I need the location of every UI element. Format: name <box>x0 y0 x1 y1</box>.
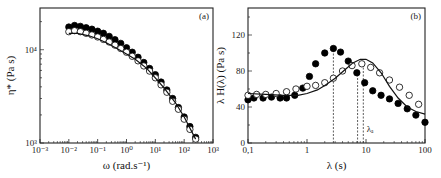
open-data-point <box>312 82 318 88</box>
lambda-a-annotation: λₐ <box>367 124 374 134</box>
open-data-point <box>283 89 289 95</box>
panel-a-viscosity-chart: 10⁻³10⁻²10⁻¹10⁰10¹10²10³10³10⁴(a)ω (rad.… <box>4 8 219 172</box>
x-tick-label: 100 <box>418 145 432 155</box>
x-tick-label: 10 <box>362 145 372 155</box>
x-tick-label: 10² <box>178 145 190 155</box>
x-tick-label: 10³ <box>207 145 219 155</box>
x-axis-title: λ (s) <box>327 159 347 172</box>
open-data-point <box>304 83 310 89</box>
y-tick-label: 10⁴ <box>25 45 37 55</box>
figure: 10⁻³10⁻²10⁻¹10⁰10¹10²10³10³10⁴(a)ω (rad.… <box>0 0 441 178</box>
x-tick-label: 10⁻² <box>61 145 78 155</box>
filled-data-point <box>386 96 392 102</box>
x-tick-label: 10⁻¹ <box>89 145 106 155</box>
panel-label: (b) <box>411 11 422 21</box>
y-tick-label: 0 <box>241 138 246 148</box>
x-axis-title: ω (rad.s⁻¹) <box>103 159 151 172</box>
filled-data-point <box>100 30 106 36</box>
y-axis-title: λ H(λ) (Pa s) <box>214 47 227 104</box>
filled-data-point <box>354 70 360 76</box>
open-data-point <box>367 64 373 70</box>
open-data-point <box>273 90 279 96</box>
filled-data-point <box>378 92 384 98</box>
filled-data-point <box>361 80 367 86</box>
panel-b-relaxation-spectrum-chart: 0,111010004080120λₐ(b)λ (s)λ H(λ) (Pa s) <box>214 8 432 172</box>
open-data-point <box>406 92 412 98</box>
x-tick-label: 1 <box>305 145 310 155</box>
y-axis-title: η* (Pa s) <box>4 55 17 95</box>
open-data-point <box>415 101 421 107</box>
open-data-point <box>396 84 402 90</box>
x-tick-label: 10¹ <box>149 145 161 155</box>
open-data-point <box>192 136 198 142</box>
filled-data-point <box>330 45 336 51</box>
filled-data-point <box>312 61 318 67</box>
y-tick-label: 80 <box>236 66 246 76</box>
filled-data-point <box>413 112 419 118</box>
panel-label: (a) <box>199 11 209 21</box>
plot-frame <box>248 8 425 143</box>
filled-data-point <box>422 119 428 125</box>
filled-data-point <box>370 88 376 94</box>
open-data-point <box>66 28 72 34</box>
open-data-point <box>293 86 299 92</box>
filled-data-point <box>337 49 343 55</box>
y-tick-label: 10³ <box>25 138 37 148</box>
y-tick-label: 120 <box>232 30 246 40</box>
filled-data-point <box>306 73 312 79</box>
x-tick-label: 10⁰ <box>120 145 133 155</box>
filled-data-point <box>322 50 328 56</box>
open-data-point <box>359 61 365 67</box>
y-tick-label: 40 <box>236 102 246 112</box>
filled-data-point <box>395 100 401 106</box>
